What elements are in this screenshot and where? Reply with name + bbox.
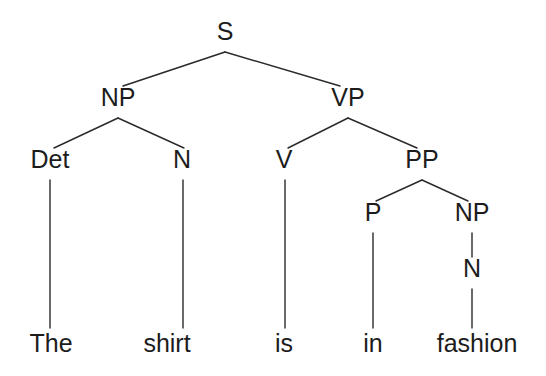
tree-leaves-group: The shirt is in fashion <box>29 329 517 357</box>
syntax-tree-canvas: S NP VP Det N V PP P NP N The shirt is i… <box>0 0 546 376</box>
edge-s-vp <box>225 52 340 86</box>
leaf-is: is <box>275 329 293 357</box>
edge-vp-pp <box>348 118 417 148</box>
node-n-object: N <box>463 254 481 282</box>
node-n-subject: N <box>173 145 191 173</box>
leaf-the: The <box>29 329 72 357</box>
node-det: Det <box>31 145 70 173</box>
node-p: P <box>365 198 382 226</box>
node-np-object: NP <box>455 198 490 226</box>
node-s: S <box>217 17 234 45</box>
leaf-shirt: shirt <box>143 329 190 357</box>
node-v: V <box>276 145 293 173</box>
edge-np-n <box>118 118 184 148</box>
leaf-fashion: fashion <box>437 329 518 357</box>
node-pp: PP <box>405 145 438 173</box>
edge-np-det <box>54 118 118 148</box>
node-np-subject: NP <box>101 83 136 111</box>
leaf-in: in <box>363 329 382 357</box>
edge-s-np <box>123 52 225 86</box>
edge-pp-p <box>376 180 422 201</box>
edge-vp-v <box>288 118 348 148</box>
node-vp: VP <box>331 83 364 111</box>
syntax-tree-figure: S NP VP Det N V PP P NP N The shirt is i… <box>0 0 546 376</box>
tree-nodes-group: S NP VP Det N V PP P NP N <box>31 17 490 282</box>
